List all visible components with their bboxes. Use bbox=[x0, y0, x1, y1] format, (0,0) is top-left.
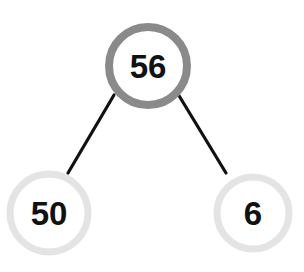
node-root: 56 bbox=[109, 27, 187, 105]
connector-root-left bbox=[68, 95, 114, 173]
number-bond-diagram: 56 50 6 bbox=[0, 0, 304, 272]
connector-root-right bbox=[178, 94, 226, 173]
left-value: 50 bbox=[31, 195, 68, 232]
node-right: 6 bbox=[217, 177, 289, 249]
right-value: 6 bbox=[244, 195, 262, 232]
root-value: 56 bbox=[130, 48, 167, 85]
node-left: 50 bbox=[10, 174, 88, 252]
